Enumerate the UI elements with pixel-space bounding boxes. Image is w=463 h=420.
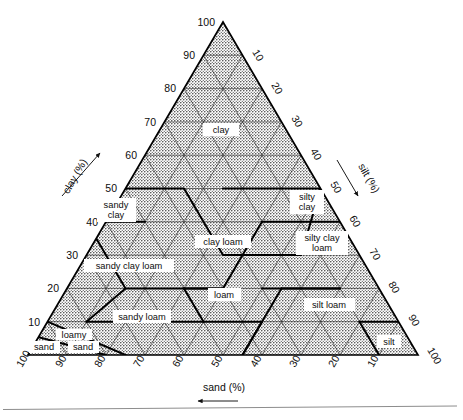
class-label-silty-clay-loam-line2: loam <box>312 243 332 253</box>
class-label-clay: clay <box>203 123 239 136</box>
class-label-sandy-loam: sandy loam <box>113 310 171 323</box>
class-label-sand-text: sand <box>34 342 54 352</box>
class-label-silt-loam-text: silt loam <box>312 300 346 310</box>
class-label-loam: loam <box>208 288 241 301</box>
class-label-sandy-clay-loam-text: sandy clay loam <box>96 261 163 271</box>
class-label-sandy-loam-text: sandy loam <box>118 312 166 322</box>
class-label-sandy-clay-line1: sandy <box>104 200 129 210</box>
class-label-clay-loam: clay loam <box>195 235 251 248</box>
class-label-sandy-clay-line2: clay <box>108 210 125 220</box>
class-label-silty-clay-loam: silty clay loam <box>296 231 348 255</box>
clay-tick-90: 90 <box>183 49 195 61</box>
class-label-loam-text: loam <box>214 290 234 300</box>
class-label-sand: sand <box>29 341 60 353</box>
class-label-silt: silt <box>377 335 401 348</box>
clay-tick-20: 20 <box>47 282 59 294</box>
class-label-loamy-sand-line1: loamy <box>62 330 87 340</box>
clay-tick-10: 10 <box>28 316 40 328</box>
class-label-sandy-clay: sandy clay <box>97 198 136 222</box>
clay-tick-50: 50 <box>105 182 117 194</box>
clay-tick-80: 80 <box>164 82 176 94</box>
class-label-clay-text: clay <box>213 125 230 135</box>
soil-texture-triangle-figure: 10 20 30 40 50 60 70 80 90 100 10 20 30 … <box>0 0 463 420</box>
class-label-clay-loam-text: clay loam <box>203 237 243 247</box>
clay-tick-70: 70 <box>144 116 156 128</box>
clay-tick-60: 60 <box>125 149 137 161</box>
class-label-sandy-clay-loam: sandy clay loam <box>84 259 174 272</box>
class-label-silt-loam: silt loam <box>304 298 355 311</box>
clay-tick-100: 100 <box>197 16 215 28</box>
class-label-silty-clay-line1: silty <box>299 192 315 202</box>
class-label-silty-clay-line2: clay <box>299 202 316 212</box>
clay-tick-40: 40 <box>86 216 98 228</box>
class-label-silty-clay: silty clay <box>290 190 324 214</box>
class-label-silt-text: silt <box>383 337 395 347</box>
sand-axis-title: sand (%) <box>203 381 245 393</box>
clay-tick-30: 30 <box>66 249 78 261</box>
class-label-loamy-sand-line2: sand <box>73 342 93 352</box>
class-label-silty-clay-loam-line1: silty clay <box>304 233 339 243</box>
